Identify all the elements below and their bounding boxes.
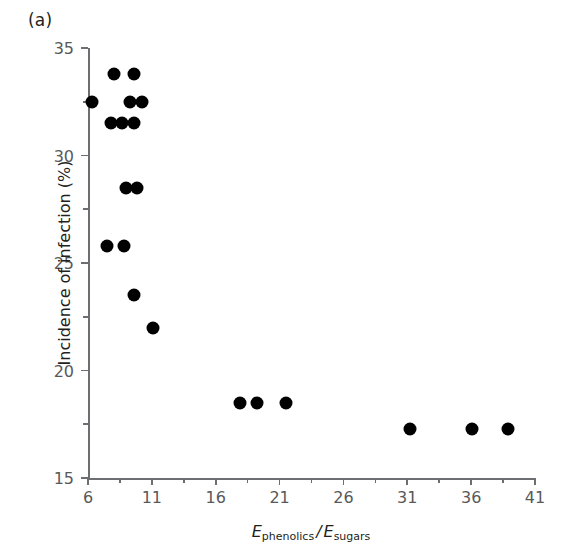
plot-area: 1520253035 611162126313641 Incidence of … (88, 48, 535, 478)
data-point (101, 239, 114, 252)
x-axis-title: Ephenolics/Esugars (252, 522, 371, 541)
data-point (279, 396, 292, 409)
data-point (466, 422, 479, 435)
x-axis-title-numerator-subscript: phenolics (262, 530, 314, 543)
data-point (127, 117, 140, 130)
y-tick-major (81, 47, 88, 49)
x-tick-major (406, 478, 408, 485)
y-tick-major (81, 370, 88, 372)
x-tick-label: 6 (83, 488, 93, 507)
data-point (147, 321, 160, 334)
x-axis-title-denominator-subscript: sugars (334, 530, 371, 543)
x-axis-title-separator: / (314, 522, 323, 541)
x-tick-major (87, 478, 89, 485)
data-point (117, 239, 130, 252)
x-tick-label: 11 (142, 488, 162, 507)
panel-label: (a) (28, 10, 52, 30)
data-point (135, 95, 148, 108)
x-tick-minor (247, 478, 249, 483)
data-point (85, 95, 98, 108)
y-tick-minor (83, 423, 88, 425)
y-tick-minor (83, 316, 88, 318)
x-tick-minor (119, 478, 121, 483)
y-tick-label: 15 (54, 469, 74, 488)
x-tick-label: 16 (206, 488, 226, 507)
x-tick-minor (183, 478, 185, 483)
y-tick-label: 35 (54, 39, 74, 58)
x-tick-label: 21 (269, 488, 289, 507)
x-tick-major (279, 478, 281, 485)
data-point (127, 289, 140, 302)
x-tick-label: 31 (397, 488, 417, 507)
x-tick-minor (438, 478, 440, 483)
data-point (250, 396, 263, 409)
y-tick-minor (83, 208, 88, 210)
data-point (130, 181, 143, 194)
x-tick-major (151, 478, 153, 485)
x-tick-major (534, 478, 536, 485)
y-axis-line (88, 48, 90, 478)
x-tick-label: 26 (333, 488, 353, 507)
x-axis-title-numerator-symbol: E (252, 522, 262, 541)
x-tick-major (343, 478, 345, 485)
y-axis-title: Incidence of infection (%) (55, 161, 74, 366)
data-point (233, 396, 246, 409)
x-tick-minor (375, 478, 377, 483)
x-tick-major (215, 478, 217, 485)
x-tick-label: 41 (525, 488, 545, 507)
x-tick-label: 36 (461, 488, 481, 507)
data-point (403, 422, 416, 435)
y-tick-major (81, 262, 88, 264)
data-point (107, 67, 120, 80)
x-tick-minor (311, 478, 313, 483)
x-tick-major (470, 478, 472, 485)
y-tick-major (81, 155, 88, 157)
data-point (502, 422, 515, 435)
figure-panel: (a) 1520253035 611162126313641 Incidence… (0, 0, 572, 546)
x-axis-title-denominator-symbol: E (324, 522, 334, 541)
data-point (127, 67, 140, 80)
x-tick-minor (502, 478, 504, 483)
